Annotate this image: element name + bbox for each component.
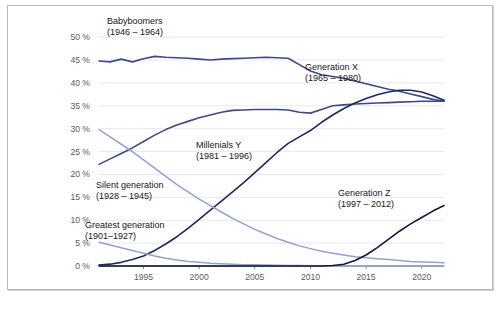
y-axis-tick-label: 35 % (70, 101, 90, 111)
series-annotation-name: Generation X (305, 62, 358, 72)
series-annotation-silent-generation: Silent generation(1928 – 1945) (96, 180, 164, 201)
series-annotation-name: Generation Z (338, 188, 391, 198)
series-annotation-years: (1901–1927) (85, 231, 136, 241)
series-annotation-greatest-generation: Greatest generation(1901–1927) (85, 220, 165, 241)
x-axis-tick-label: 2020 (412, 272, 431, 282)
series-annotation-name: Millenials Y (196, 140, 241, 150)
series-annotation-name: Babyboomers (107, 16, 163, 26)
x-axis-tick-label: 2010 (301, 272, 320, 282)
y-axis-tick-label: 20 % (70, 169, 90, 179)
line-chart-plot: 0 %5 %10 %15 %20 %25 %30 %35 %40 %45 %50… (0, 0, 502, 312)
series-line-greatest-generation (99, 242, 444, 266)
y-axis-tick-label: 40 % (70, 78, 90, 88)
series-line-generation-x (99, 101, 444, 164)
x-axis-tick-label: 2000 (190, 272, 209, 282)
series-annotation-years: (1981 – 1996) (196, 151, 252, 161)
y-axis-tick-label: 45 % (70, 55, 90, 65)
series-annotation-name: Greatest generation (85, 220, 165, 230)
series-line-babyboomers (99, 56, 444, 101)
series-line-millenials-y (99, 90, 444, 265)
x-axis-tick-label: 2015 (357, 272, 376, 282)
x-axis-tick-label: 1995 (134, 272, 153, 282)
series-annotation-years: (1928 – 1945) (96, 191, 152, 201)
y-axis-tick-label: 30 % (70, 124, 90, 134)
series-annotation-generation-z: Generation Z(1997 – 2012) (338, 188, 394, 209)
series-annotation-name: Silent generation (96, 180, 164, 190)
x-axis-tick-label: 2005 (245, 272, 264, 282)
y-axis-tick-label: 15 % (70, 192, 90, 202)
series-annotation-years: (1965 – 1980) (305, 73, 361, 83)
series-annotation-millenials-y: Millenials Y(1981 – 1996) (196, 140, 252, 161)
y-axis-tick-label: 25 % (70, 147, 90, 157)
series-annotation-years: (1997 – 2012) (338, 199, 394, 209)
chart-figure: 0 %5 %10 %15 %20 %25 %30 %35 %40 %45 %50… (0, 0, 502, 312)
series-annotation-babyboomers: Babyboomers(1946 – 1964) (107, 16, 163, 37)
series-annotation-generation-x: Generation X(1965 – 1980) (305, 62, 361, 83)
y-axis-tick-label: 50 % (70, 32, 90, 42)
series-annotation-years: (1946 – 1964) (107, 27, 163, 37)
y-axis-tick-label: 0 % (75, 261, 90, 271)
